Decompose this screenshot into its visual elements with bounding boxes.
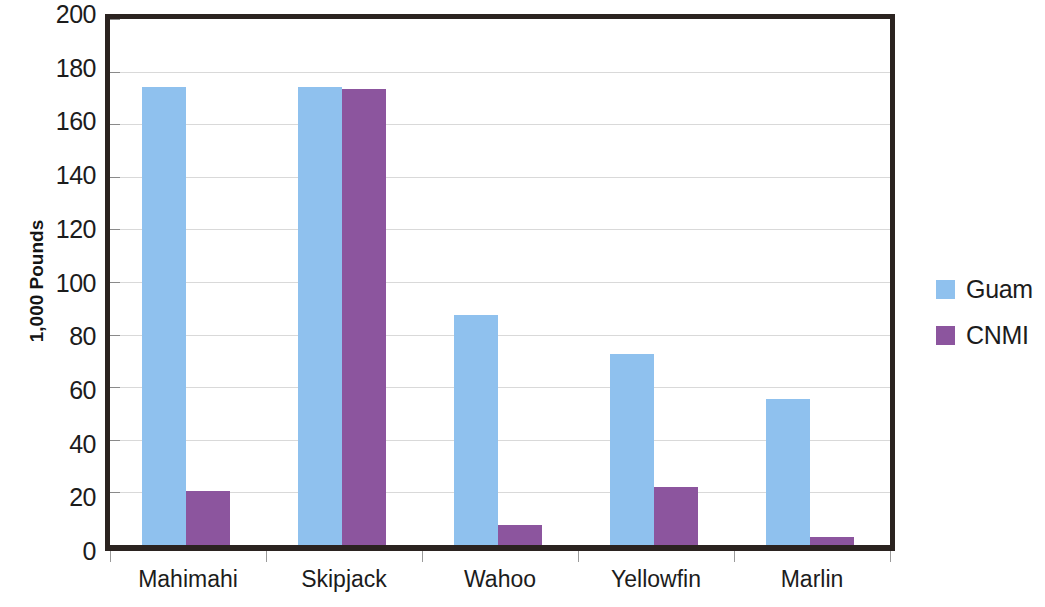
y-tick-label: 140 bbox=[20, 161, 96, 190]
x-tick-mark bbox=[266, 551, 267, 562]
y-tick-label: 100 bbox=[20, 268, 96, 297]
x-tick-mark bbox=[422, 551, 423, 562]
bar-guam-skipjack bbox=[298, 87, 342, 545]
x-tick-mark bbox=[734, 551, 735, 562]
y-tick-label: 0 bbox=[20, 537, 96, 566]
bar-cnmi-mahimahi bbox=[186, 491, 230, 545]
legend-swatch-cnmi bbox=[936, 326, 955, 345]
legend-item-guam: Guam bbox=[936, 266, 1045, 312]
bar-group bbox=[578, 19, 734, 545]
y-tick-label: 20 bbox=[20, 483, 96, 512]
bar-group bbox=[422, 19, 578, 545]
y-axis-tick-labels: 020406080100120140160180200 bbox=[20, 0, 96, 607]
y-tick-label: 60 bbox=[20, 375, 96, 404]
x-tick-label: Marlin bbox=[781, 566, 844, 593]
y-tick-label: 180 bbox=[20, 53, 96, 82]
x-tick-mark bbox=[110, 551, 111, 562]
bar-cnmi-marlin bbox=[810, 537, 854, 545]
x-tick-label: Skipjack bbox=[301, 566, 387, 593]
y-tick-label: 40 bbox=[20, 429, 96, 458]
y-tick-label: 200 bbox=[20, 0, 96, 29]
y-tick-label: 120 bbox=[20, 214, 96, 243]
bar-cnmi-skipjack bbox=[342, 89, 386, 545]
x-axis-category-labels: MahimahiSkipjackWahooYellowfinMarlin bbox=[105, 566, 895, 606]
x-axis-tick-marks bbox=[105, 551, 895, 563]
chart-legend: Guam CNMI bbox=[936, 266, 1045, 358]
legend-item-cnmi: CNMI bbox=[936, 312, 1045, 358]
bar-group bbox=[266, 19, 422, 545]
plot-inner bbox=[110, 19, 890, 545]
legend-swatch-guam bbox=[936, 280, 955, 299]
bar-guam-marlin bbox=[766, 399, 810, 545]
bar-guam-yellowfin bbox=[610, 354, 654, 545]
bar-cnmi-wahoo bbox=[498, 525, 542, 545]
bar-cnmi-yellowfin bbox=[654, 487, 698, 545]
y-tick-label: 80 bbox=[20, 322, 96, 351]
bar-group bbox=[110, 19, 266, 545]
x-tick-label: Wahoo bbox=[464, 566, 536, 593]
bar-chart-figure: 1,000 Pounds 020406080100120140160180200… bbox=[0, 0, 1045, 607]
bar-group bbox=[734, 19, 890, 545]
y-tick-label: 160 bbox=[20, 107, 96, 136]
plot-area bbox=[105, 14, 895, 551]
bar-guam-wahoo bbox=[454, 315, 498, 545]
x-tick-label: Yellowfin bbox=[611, 566, 701, 593]
bar-guam-mahimahi bbox=[142, 87, 186, 545]
legend-label-guam: Guam bbox=[966, 275, 1033, 304]
x-tick-label: Mahimahi bbox=[138, 566, 238, 593]
legend-label-cnmi: CNMI bbox=[966, 321, 1029, 350]
x-tick-mark bbox=[890, 551, 891, 562]
x-tick-mark bbox=[578, 551, 579, 562]
bar-groups bbox=[110, 19, 890, 545]
